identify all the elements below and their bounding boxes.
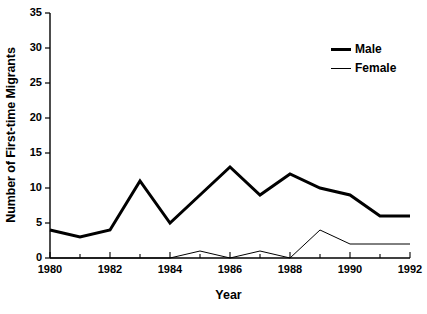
legend-line-icon-male xyxy=(331,48,351,51)
legend-label-male: Male xyxy=(355,42,382,56)
legend-item-female: Female xyxy=(331,61,396,75)
y-axis-title-text: Number of First-time Migrants xyxy=(4,47,18,223)
x-tick-label: 1984 xyxy=(150,263,190,275)
series-line-male xyxy=(50,167,410,237)
y-tick-label: 0 xyxy=(16,251,42,263)
x-tick-label: 1990 xyxy=(330,263,370,275)
chart-container: Number of First-time Migrants Year 05101… xyxy=(0,0,427,314)
y-tick-label: 5 xyxy=(16,216,42,228)
y-tick-label: 10 xyxy=(16,181,42,193)
y-tick-marks xyxy=(45,13,50,258)
data-series-group xyxy=(50,167,410,258)
x-tick-marks xyxy=(50,252,410,258)
x-tick-label: 1988 xyxy=(270,263,310,275)
x-tick-label: 1982 xyxy=(90,263,130,275)
x-axis-title: Year xyxy=(0,288,427,302)
y-tick-label: 30 xyxy=(16,41,42,53)
y-tick-label: 20 xyxy=(16,111,42,123)
x-tick-label: 1980 xyxy=(30,263,70,275)
legend-line-icon-female xyxy=(331,68,351,69)
legend-item-male: Male xyxy=(331,42,382,56)
x-tick-label: 1992 xyxy=(390,263,427,275)
y-tick-label: 15 xyxy=(16,146,42,158)
y-tick-label: 35 xyxy=(16,6,42,18)
legend-label-female: Female xyxy=(355,61,396,75)
x-tick-label: 1986 xyxy=(210,263,250,275)
y-tick-label: 25 xyxy=(16,76,42,88)
